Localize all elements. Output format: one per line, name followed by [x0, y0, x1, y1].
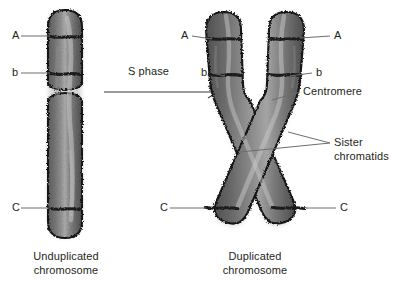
- caption-duplicated-line1: Duplicated: [195, 250, 315, 263]
- duplicated-chromosome: [170, 12, 336, 225]
- label-C-duplicated-right: C: [340, 201, 348, 214]
- label-A-duplicated-right: A: [334, 29, 341, 42]
- caption-unduplicated-line1: Unduplicated: [6, 250, 126, 263]
- leader-sister-chromatid-2: [288, 132, 330, 143]
- s-phase-arrow: [104, 86, 218, 98]
- label-A-unduplicated: A: [12, 29, 19, 42]
- band-C: [48, 208, 82, 210]
- label-C-duplicated-left: C: [160, 201, 168, 214]
- label-centromere: Centromere: [303, 85, 362, 98]
- label-b-duplicated-left: b: [201, 66, 207, 79]
- band-C-left-chromatid: [204, 207, 239, 209]
- caption-unduplicated-line2: chromosome: [6, 264, 126, 277]
- label-chromatids: chromatids: [334, 150, 389, 163]
- label-A-duplicated-left: A: [181, 29, 188, 42]
- label-C-unduplicated: C: [12, 201, 20, 214]
- label-b-unduplicated: b: [12, 66, 18, 79]
- label-b-duplicated-right: b: [316, 66, 322, 79]
- s-phase-label: S phase: [128, 65, 169, 78]
- unduplicated-chromosome: [21, 10, 82, 238]
- band-b: [48, 73, 82, 75]
- chromosome-body: [48, 10, 82, 238]
- label-sister: Sister: [334, 136, 363, 149]
- chromosome-duplication-figure: A b C Unduplicated chromosome S phase A …: [0, 0, 411, 295]
- leader-lines-left: [21, 36, 50, 208]
- caption-duplicated-line2: chromosome: [195, 264, 315, 277]
- band-b-left-chromatid: [208, 74, 243, 76]
- band-A-right-chromatid: [269, 38, 304, 40]
- band-A: [48, 36, 82, 38]
- band-C-right-chromatid: [271, 207, 306, 209]
